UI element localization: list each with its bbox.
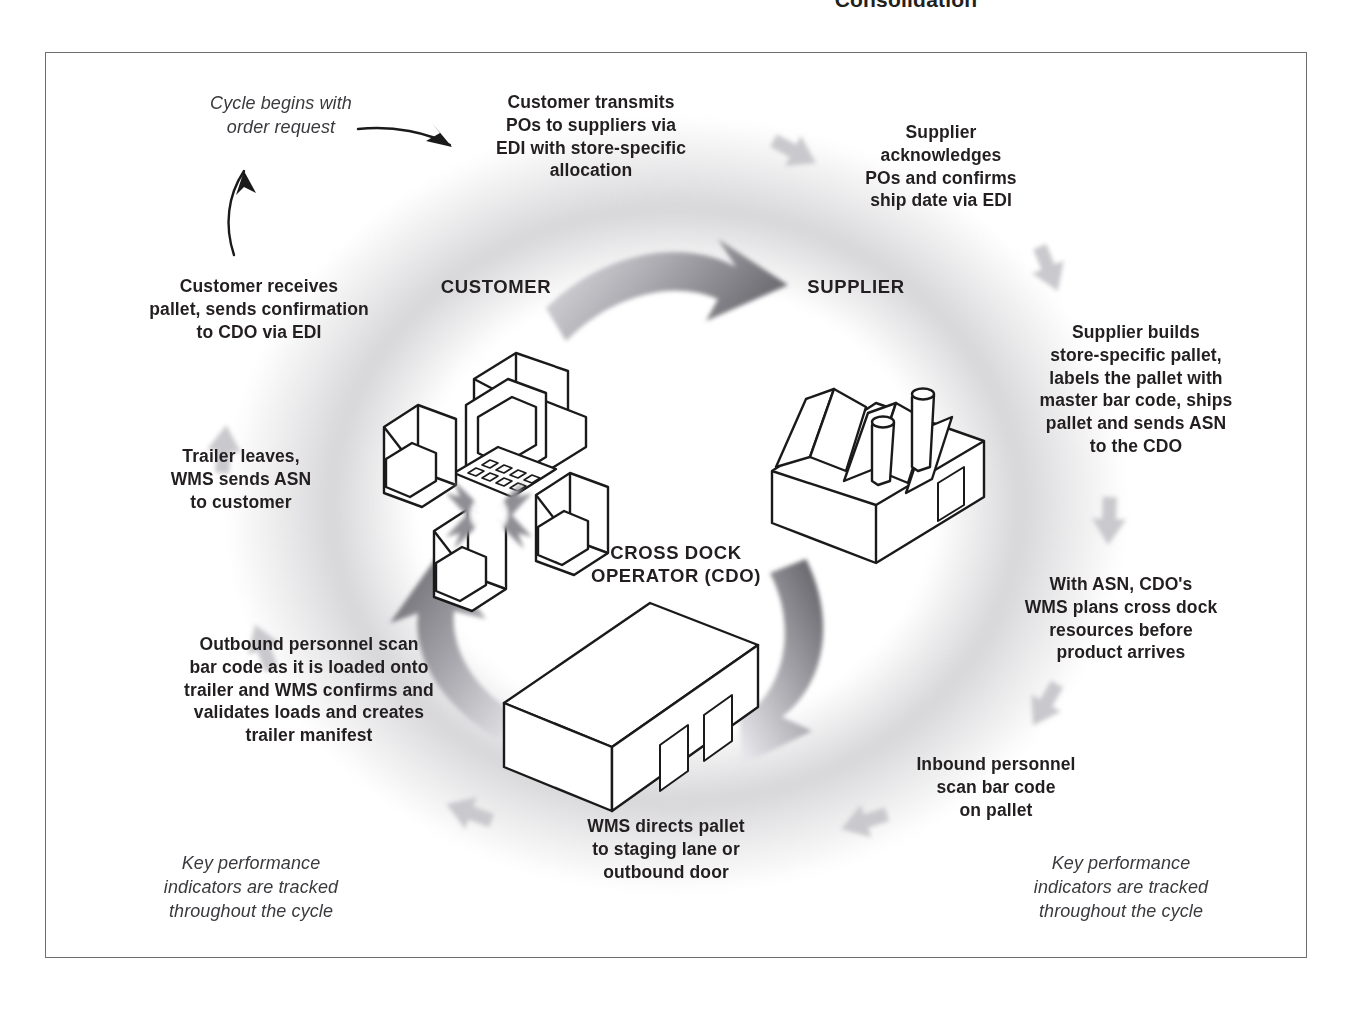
step-note-trailer-leaves: Trailer leaves,WMS sends ASNto customer [116, 445, 366, 513]
actor-label-cdo-line2: OPERATOR (CDO) [556, 564, 796, 587]
step-note-inbound-scan: Inbound personnelscan bar codeon pallet [876, 753, 1116, 821]
actor-label-supplier-text: SUPPLIER [807, 276, 904, 297]
step-note-outbound-scan: Outbound personnel scanbar code as it is… [124, 633, 494, 747]
step-note-wms-directs-pallet: WMS directs palletto staging lane oroutb… [536, 815, 796, 883]
actor-label-cdo-line1: CROSS DOCK [556, 541, 796, 564]
annotation-kpi-right: Key performanceindicators are trackedthr… [976, 851, 1266, 923]
step-note-supplier-builds-pallet: Supplier buildsstore-specific pallet,lab… [996, 321, 1276, 458]
annotation-kpi-left: Key performanceindicators are trackedthr… [106, 851, 396, 923]
actor-label-customer-text: CUSTOMER [441, 276, 551, 297]
step-note-customer-receives-pallet: Customer receivespallet, sends confirmat… [104, 275, 414, 343]
step-note-customer-transmits-pos: Customer transmitsPOs to suppliers viaED… [446, 91, 736, 182]
step-note-wms-plans-cross-dock: With ASN, CDO'sWMS plans cross dockresou… [976, 573, 1266, 664]
page-running-header: Consolidation [0, 0, 1356, 12]
step-note-supplier-acknowledges: SupplieracknowledgesPOs and confirmsship… [826, 121, 1056, 212]
actor-label-supplier: SUPPLIER [766, 275, 946, 298]
page-running-header-text: Consolidation [835, 0, 978, 11]
warehouse-icon [504, 603, 758, 811]
annotation-cycle-begins: Cycle begins withorder request [166, 91, 396, 139]
actor-label-customer: CUSTOMER [401, 275, 591, 298]
diagram-frame: CUSTOMER SUPPLIER CROSS DOCK OPERATOR (C… [45, 52, 1307, 958]
actor-label-cdo: CROSS DOCK OPERATOR (CDO) [556, 541, 796, 587]
